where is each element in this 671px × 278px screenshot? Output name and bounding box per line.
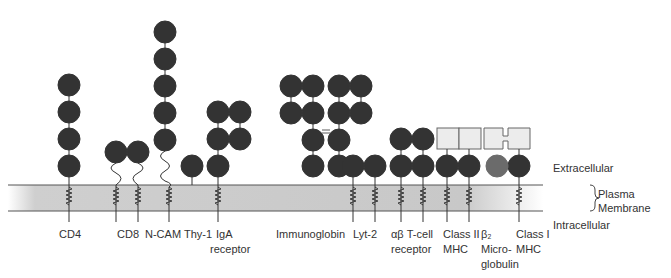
- label-ncam: N-CAM: [145, 228, 181, 241]
- label-b2m-2: Micro-: [481, 243, 512, 256]
- label-thy1: Thy-1: [184, 228, 212, 241]
- label-b2m-3: globulin: [481, 258, 519, 271]
- label-plasma-membrane-2: Membrane: [598, 202, 651, 215]
- label-plasma-membrane-1: Plasma: [598, 188, 635, 201]
- label-tcr: αβ T-cell: [391, 228, 433, 241]
- plasma-membrane: [8, 185, 543, 211]
- label-lyt2: Lyt-2: [353, 228, 377, 241]
- label-mhc2: Class II: [443, 228, 480, 241]
- label-cd8: CD8: [117, 228, 139, 241]
- protein-thy1: [181, 155, 203, 185]
- label-tcr-2: receptor: [391, 243, 431, 256]
- label-immunoglobin: Immunoglobin: [276, 228, 345, 241]
- label-intracellular: Intracellular: [553, 219, 610, 232]
- protein-beta2-microglobulin: [486, 155, 508, 177]
- label-mhc2-2: MHC: [443, 243, 468, 256]
- label-extracellular: Extracellular: [553, 162, 614, 175]
- label-cd4: CD4: [59, 228, 81, 241]
- label-mhc1-2: MHC: [516, 243, 541, 256]
- label-iga: IgA: [216, 228, 233, 241]
- label-mhc1: Class I: [516, 228, 550, 241]
- label-iga-2: receptor: [210, 243, 250, 256]
- label-b2m: β₂: [481, 228, 492, 241]
